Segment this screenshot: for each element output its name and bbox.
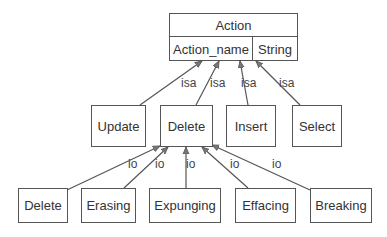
edge-label-io: io: [155, 157, 164, 171]
attribute-type: String: [253, 37, 297, 61]
attribute-row: Action_name String: [170, 37, 297, 61]
edge-breaking-delete: [212, 145, 310, 190]
edge-label-io: io: [128, 157, 137, 171]
class-title: Action: [170, 14, 297, 37]
class-action[interactable]: Action Action_name String: [169, 13, 298, 61]
node-expunging[interactable]: Expunging: [149, 188, 221, 223]
edge-label-io: io: [272, 157, 281, 171]
edge-effacing-delete: [202, 147, 248, 188]
edge-label-isa: isa: [279, 76, 294, 90]
edge-label-isa: isa: [181, 76, 196, 90]
node-breaking[interactable]: Breaking: [310, 188, 372, 223]
node-delete-instance[interactable]: Delete: [18, 188, 68, 223]
edge-label-io: io: [230, 157, 239, 171]
node-effacing[interactable]: Effacing: [235, 188, 296, 223]
node-delete[interactable]: Delete: [160, 105, 213, 147]
edge-label-isa: isa: [210, 76, 225, 90]
edge-label-io: io: [186, 157, 195, 171]
attribute-name: Action_name: [170, 37, 253, 61]
node-select[interactable]: Select: [292, 105, 342, 147]
node-update[interactable]: Update: [91, 105, 146, 147]
edge-label-isa: isa: [241, 76, 256, 90]
node-erasing[interactable]: Erasing: [81, 188, 136, 223]
node-insert[interactable]: Insert: [226, 105, 276, 147]
